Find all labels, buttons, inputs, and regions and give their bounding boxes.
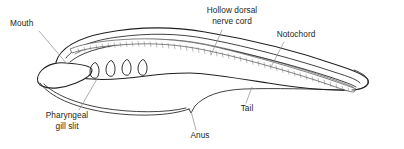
label-gill-slit-line1: Pharyngeal <box>46 110 89 120</box>
label-nerve-cord-line2: nerve cord <box>212 16 252 26</box>
chordate-anatomy-figure: Mouth Hollow dorsal nerve cord Notochord… <box>0 0 404 149</box>
label-nerve-cord-line1: Hollow dorsal <box>207 5 258 15</box>
label-tail: Tail <box>241 103 254 113</box>
label-anus: Anus <box>190 130 209 140</box>
diagram-canvas: Mouth Hollow dorsal nerve cord Notochord… <box>0 0 404 149</box>
label-gill-slit-line2: gill slit <box>55 121 79 131</box>
label-notochord: Notochord <box>277 29 316 39</box>
label-mouth: Mouth <box>10 18 34 28</box>
